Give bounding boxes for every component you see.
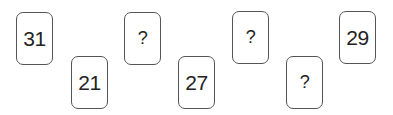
card-value: 31	[23, 27, 45, 51]
card-value: 21	[78, 71, 100, 95]
card-value: ?	[300, 72, 310, 93]
card-6-unknown: ?	[286, 56, 323, 109]
card-value: ?	[138, 28, 148, 49]
card-7: 29	[339, 11, 376, 64]
card-4: 27	[178, 56, 215, 109]
card-value: ?	[246, 27, 256, 48]
card-value: 27	[185, 71, 207, 95]
card-1: 31	[16, 12, 53, 65]
card-value: 29	[346, 26, 368, 50]
card-5-unknown: ?	[232, 11, 269, 64]
card-3-unknown: ?	[124, 12, 161, 65]
card-2: 21	[71, 56, 108, 109]
